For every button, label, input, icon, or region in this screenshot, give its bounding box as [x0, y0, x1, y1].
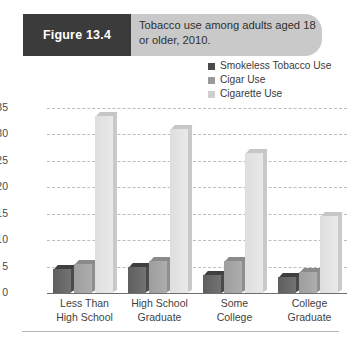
bar — [95, 116, 113, 293]
bar — [203, 275, 221, 294]
bar-top — [279, 273, 301, 277]
legend-swatch-icon — [208, 63, 215, 70]
bar-top — [96, 112, 118, 116]
bar-top — [129, 263, 151, 267]
bar-face — [245, 153, 263, 293]
y-axis-tick-label: 30 — [0, 127, 8, 139]
bar — [74, 264, 92, 293]
bar-top — [75, 260, 97, 264]
bar-face — [170, 129, 188, 293]
bar — [299, 272, 317, 293]
legend-label: Cigar Use — [220, 74, 265, 87]
bar-side — [113, 113, 117, 293]
y-axis-tick-label: 10 — [0, 233, 8, 245]
bar-face — [224, 261, 242, 293]
legend-label: Cigarette Use — [220, 88, 282, 101]
y-axis-tick-label: 35 — [0, 101, 8, 113]
y-axis-tick-label: 15 — [0, 207, 8, 219]
bar-face — [320, 216, 338, 293]
bar-top — [171, 125, 193, 129]
bar — [170, 129, 188, 293]
bar-face — [53, 269, 71, 293]
y-axis-tick-label: 20 — [0, 180, 8, 192]
bar-top — [246, 149, 268, 153]
legend-label: Smokeless Tobacco Use — [220, 60, 331, 73]
bar-face — [299, 272, 317, 293]
bar-group — [47, 108, 122, 293]
plot-area — [47, 108, 347, 293]
chart-legend: Smokeless Tobacco Use Cigar Use Cigarett… — [208, 60, 331, 102]
x-axis-label-line: College — [264, 297, 356, 311]
bar — [53, 269, 71, 293]
bar-face — [74, 264, 92, 293]
bar-group — [122, 108, 197, 293]
bar — [224, 261, 242, 293]
figure-number-label: Figure 13.4 — [23, 14, 131, 56]
bar-group — [272, 108, 347, 293]
bar — [278, 277, 296, 293]
legend-item-cigarette: Cigarette Use — [208, 88, 331, 101]
bar-face — [95, 116, 113, 293]
bar-side — [338, 213, 342, 292]
bar — [128, 267, 146, 293]
x-axis-label-line: Graduate — [264, 311, 356, 325]
y-axis-tick-label: 25 — [0, 154, 8, 166]
bar-group — [197, 108, 272, 293]
legend-swatch-icon — [208, 91, 215, 98]
legend-item-cigar: Cigar Use — [208, 74, 331, 87]
bar-side — [263, 150, 267, 293]
bar-face — [149, 261, 167, 293]
bar-face — [128, 267, 146, 293]
bar — [245, 153, 263, 293]
bar-top — [300, 268, 322, 272]
bar-face — [203, 275, 221, 294]
legend-item-smokeless: Smokeless Tobacco Use — [208, 60, 331, 73]
x-axis-line — [47, 293, 347, 294]
bar-top — [54, 265, 76, 269]
x-axis-category-label: CollegeGraduate — [264, 297, 356, 324]
bottom-divider — [22, 331, 339, 332]
y-axis-tick-label: 0 — [0, 286, 8, 298]
bar-top — [204, 271, 226, 275]
y-axis-tick-label: 5 — [0, 260, 8, 272]
figure-caption: Tobacco use among adults aged 18 or olde… — [139, 18, 319, 48]
figure-panel: Figure 13.4 Tobacco use among adults age… — [0, 0, 361, 346]
bar-face — [278, 277, 296, 293]
bar — [149, 261, 167, 293]
bar-side — [188, 126, 192, 292]
bar — [320, 216, 338, 293]
legend-swatch-icon — [208, 77, 215, 84]
figure-header: Figure 13.4 Tobacco use among adults age… — [23, 14, 322, 56]
